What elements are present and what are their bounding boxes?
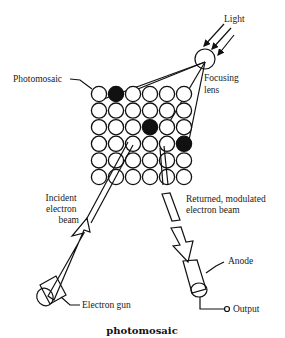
mosaic-cell bbox=[159, 103, 174, 118]
photomosaic-grid bbox=[91, 86, 191, 184]
mosaic-cell bbox=[91, 86, 106, 101]
mosaic-cell bbox=[142, 136, 157, 151]
light-label: Light bbox=[224, 14, 245, 24]
mosaic-cell bbox=[125, 86, 140, 101]
mosaic-cell bbox=[142, 120, 157, 135]
anode-leader bbox=[206, 262, 224, 273]
photomosaic-leader bbox=[70, 79, 92, 89]
photomosaic-diagram: Light Focusing lens Photomosaic Incident… bbox=[0, 0, 285, 338]
mosaic-cell bbox=[159, 120, 174, 135]
mosaic-cell bbox=[91, 136, 106, 151]
mosaic-cell bbox=[176, 86, 191, 101]
mosaic-cell bbox=[125, 120, 140, 135]
focusing-lens-label: Focusing lens bbox=[204, 73, 241, 95]
photomosaic-label: Photomosaic bbox=[13, 74, 62, 84]
mosaic-cell bbox=[176, 169, 191, 184]
mosaic-cell bbox=[176, 153, 191, 168]
mosaic-cell bbox=[159, 86, 174, 101]
mosaic-cell bbox=[91, 169, 106, 184]
mosaic-cell bbox=[125, 103, 140, 118]
mosaic-cell bbox=[91, 103, 106, 118]
figure-caption: photomosaic bbox=[106, 325, 177, 336]
mosaic-cell bbox=[108, 103, 123, 118]
electron-gun-leader bbox=[61, 297, 80, 305]
mosaic-cell bbox=[176, 136, 191, 151]
output-label: Output bbox=[233, 304, 260, 314]
output-wire bbox=[200, 297, 224, 309]
anode-icon bbox=[183, 260, 207, 297]
focusing-lens-icon bbox=[195, 49, 215, 69]
mosaic-cell bbox=[176, 103, 191, 118]
light-rays bbox=[204, 24, 234, 55]
output-terminal-icon bbox=[225, 307, 230, 312]
mosaic-cell bbox=[91, 120, 106, 135]
mosaic-cell bbox=[125, 169, 140, 184]
mosaic-cell bbox=[142, 103, 157, 118]
electron-gun-label: Electron gun bbox=[82, 300, 131, 310]
returned-beam-label: Returned, modulated electron beam bbox=[186, 194, 268, 215]
incident-beam-label: Incident electron beam bbox=[45, 193, 79, 225]
mosaic-cell bbox=[108, 86, 123, 101]
mosaic-cell bbox=[108, 120, 123, 135]
mosaic-cell bbox=[142, 86, 157, 101]
anode-label: Anode bbox=[228, 256, 253, 266]
mosaic-cell bbox=[176, 120, 191, 135]
mosaic-cell bbox=[159, 136, 174, 151]
mosaic-cell bbox=[91, 153, 106, 168]
mosaic-cell bbox=[108, 136, 123, 151]
mosaic-cell bbox=[142, 169, 157, 184]
mosaic-cell bbox=[142, 153, 157, 168]
